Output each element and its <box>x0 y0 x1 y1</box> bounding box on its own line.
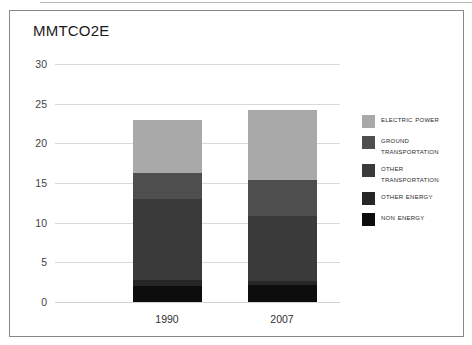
legend-item-label: Ground Transportation <box>381 135 462 156</box>
plot-area: 051015202530 19902007 <box>55 64 340 302</box>
bar-segment[interactable] <box>248 216 317 281</box>
y-axis-tick-label: 20 <box>35 137 47 149</box>
bar-segment[interactable] <box>133 199 202 280</box>
bar-segment[interactable] <box>133 286 202 302</box>
bar-segment[interactable] <box>248 110 317 180</box>
legend-swatch-icon <box>362 136 375 149</box>
bar-segment[interactable] <box>133 280 202 286</box>
legend-item[interactable]: Electric Power <box>362 114 462 128</box>
chart-figure: MMTCO2E 051015202530 19902007 Electric P… <box>0 0 472 345</box>
x-axis-tick-label: 2007 <box>270 313 293 325</box>
legend-item[interactable]: Non Energy <box>362 212 462 226</box>
x-axis-tick-label: 1990 <box>155 313 178 325</box>
bar-segment[interactable] <box>133 120 202 173</box>
legend-swatch-icon <box>362 164 375 177</box>
bar-segment[interactable] <box>248 180 317 216</box>
bar-segment[interactable] <box>248 281 317 285</box>
legend-item-label: Non Energy <box>381 212 425 223</box>
y-axis-tick-label: 15 <box>35 177 47 189</box>
legend-swatch-icon <box>362 213 375 226</box>
gridline <box>55 64 340 65</box>
bar-2007[interactable]: 2007 <box>248 110 317 302</box>
chart-title: MMTCO2E <box>33 22 109 39</box>
chart-legend: Electric PowerGround TransportationOther… <box>362 114 462 233</box>
legend-swatch-icon <box>362 192 375 205</box>
bar-segment[interactable] <box>248 285 317 302</box>
bar-segment[interactable] <box>133 173 202 199</box>
bar-1990[interactable]: 1990 <box>133 120 202 302</box>
legend-item-label: Other Energy <box>381 191 433 202</box>
legend-item-label: Other Transportation <box>381 163 462 184</box>
y-axis-tick-label: 30 <box>35 58 47 70</box>
gridline <box>55 104 340 105</box>
chart-panel: MMTCO2E 051015202530 19902007 Electric P… <box>9 10 464 337</box>
legend-item-label: Electric Power <box>381 114 439 125</box>
top-divider-rule <box>40 2 472 3</box>
legend-item[interactable]: Other Transportation <box>362 163 462 184</box>
y-axis-tick-label: 25 <box>35 98 47 110</box>
legend-item[interactable]: Other Energy <box>362 191 462 205</box>
y-axis-tick-label: 5 <box>41 256 47 268</box>
y-axis-tick-label: 0 <box>41 296 47 308</box>
legend-swatch-icon <box>362 115 375 128</box>
y-axis-tick-label: 10 <box>35 217 47 229</box>
gridline <box>55 302 340 303</box>
legend-item[interactable]: Ground Transportation <box>362 135 462 156</box>
